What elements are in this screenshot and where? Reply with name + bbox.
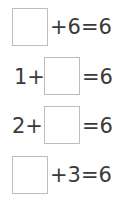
- equation-text: +3=6: [50, 155, 112, 195]
- answer-box[interactable]: [12, 156, 48, 194]
- equation-text: =6: [82, 57, 113, 97]
- equation-text: 1+: [14, 57, 45, 97]
- answer-box[interactable]: [12, 8, 48, 46]
- equation-text: 2+: [12, 106, 43, 146]
- answer-box[interactable]: [44, 106, 80, 144]
- answer-box[interactable]: [44, 57, 80, 95]
- equation-text: +6=6: [50, 7, 112, 47]
- equation-text: =6: [82, 106, 113, 146]
